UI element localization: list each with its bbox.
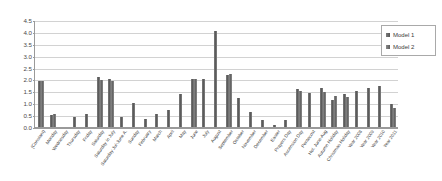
bar-group <box>188 21 200 127</box>
bar-group <box>211 21 223 127</box>
legend-item-model-2: Model 2 <box>386 44 431 50</box>
bar-group <box>246 21 258 127</box>
bar <box>202 79 205 127</box>
legend-swatch-model-1 <box>386 33 390 37</box>
bar-group <box>152 21 164 127</box>
bar <box>214 31 217 127</box>
y-axis-tick-label: 2.0 <box>23 77 32 83</box>
bar-group <box>105 21 117 127</box>
bar <box>194 79 197 127</box>
bar-group <box>47 21 59 127</box>
bar-series-container <box>35 21 398 127</box>
y-axis-tick-label: 0.5 <box>23 113 32 119</box>
plot-area: 0.00.51.01.52.02.53.03.54.04.5 <box>34 21 398 128</box>
bar-group <box>199 21 211 127</box>
bar-group <box>35 21 47 127</box>
y-axis-tick-label: 0.0 <box>23 125 32 131</box>
bar <box>100 80 103 127</box>
bar-group <box>270 21 282 127</box>
bar <box>179 94 182 127</box>
bar-group <box>82 21 94 127</box>
legend-label-model-2: Model 2 <box>393 44 414 50</box>
bar-group <box>164 21 176 127</box>
legend-label-model-1: Model 1 <box>393 32 414 38</box>
bar <box>41 81 44 127</box>
bar-group <box>94 21 106 127</box>
legend-swatch-model-2 <box>386 45 390 49</box>
y-axis-tick-label: 4.0 <box>23 30 32 36</box>
legend-item-model-1: Model 1 <box>386 32 431 38</box>
bar-group <box>58 21 70 127</box>
y-axis-tick-label: 3.5 <box>23 42 32 48</box>
y-axis-tick-label: 4.5 <box>23 18 32 24</box>
bar-chart: 0.00.51.01.52.02.53.03.54.04.5 (Constant… <box>0 0 442 181</box>
bar-group <box>223 21 235 127</box>
y-axis-tick-label: 1.0 <box>23 101 32 107</box>
x-axis-labels: (Constant)MondayWednesdayThursdayFridayS… <box>34 129 398 181</box>
chart-legend: Model 1 Model 2 <box>381 25 436 56</box>
y-axis-tick-label: 1.5 <box>23 89 32 95</box>
y-axis-tick-label: 3.0 <box>23 54 32 60</box>
bar-group <box>282 21 294 127</box>
bar-group <box>176 21 188 127</box>
y-axis-tick-label: 2.5 <box>23 65 32 71</box>
